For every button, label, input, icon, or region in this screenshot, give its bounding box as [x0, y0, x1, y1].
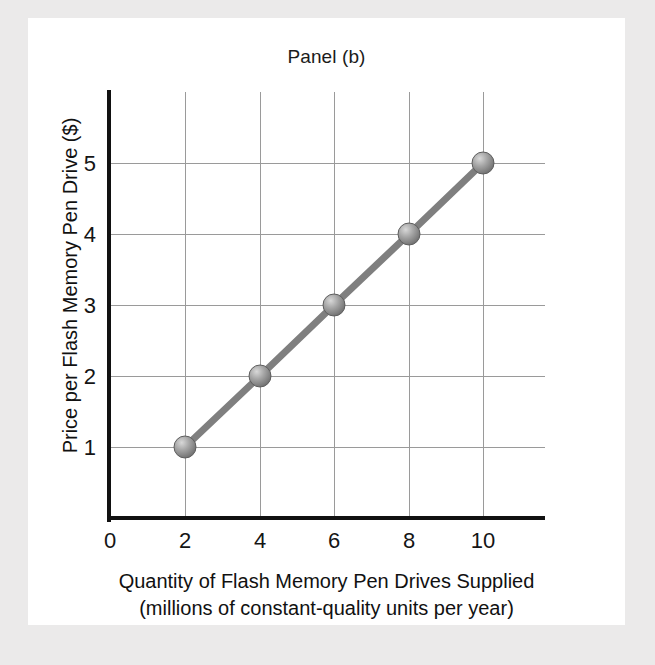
gridline-horizontal-y5 [110, 163, 545, 164]
gridline-horizontal-y3 [110, 305, 545, 306]
x-axis-title-line1: Quantity of Flash Memory Pen Drives Supp… [28, 568, 625, 595]
x-axis-title: Quantity of Flash Memory Pen Drives Supp… [28, 568, 625, 622]
x-tick-label-10: 10 [463, 528, 503, 554]
gridline-horizontal-y2 [110, 376, 545, 377]
x-tick-label-4: 4 [240, 528, 280, 554]
x-axis-title-line2: (millions of constant-quality units per … [28, 595, 625, 622]
x-tick-label-8: 8 [389, 528, 429, 554]
figure-page: Panel (b) 1 2 3 4 5 0 2 [0, 0, 655, 665]
gridline-vertical-x2 [185, 92, 186, 518]
gridline-vertical-x4 [260, 92, 261, 518]
y-axis-line [107, 90, 111, 522]
gridline-vertical-x10 [483, 92, 484, 518]
y-axis-title: Price per Flash Memory Pen Drive ($) [59, 76, 82, 496]
gridline-vertical-x6 [334, 92, 335, 518]
gridline-horizontal-y4 [110, 234, 545, 235]
x-tick-label-2: 2 [165, 528, 205, 554]
plot-area: 1 2 3 4 5 0 2 4 6 8 10 [28, 18, 625, 625]
gridline-horizontal-y1 [110, 447, 545, 448]
x-tick-label-6: 6 [314, 528, 354, 554]
x-axis-line [107, 516, 545, 520]
chart-panel: Panel (b) 1 2 3 4 5 0 2 [28, 18, 625, 625]
gridline-vertical-x8 [409, 92, 410, 518]
x-tick-label-0: 0 [90, 528, 130, 554]
